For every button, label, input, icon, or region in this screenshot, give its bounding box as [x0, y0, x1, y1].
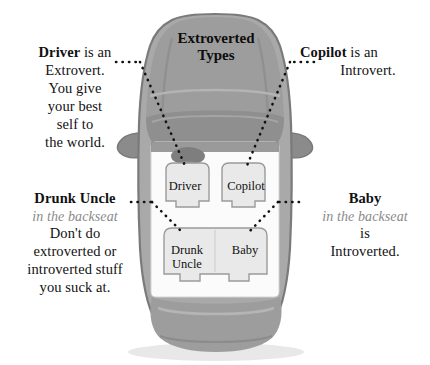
seat-label-driver: Driver [160, 179, 210, 193]
annotation-copilot-lead-rest: is an [347, 44, 378, 60]
annotation-drunk-uncle-line-3: introverted stuff [0, 261, 150, 279]
annotation-driver-line-3: your best [2, 98, 148, 116]
trunk-panel [150, 297, 281, 352]
annotation-drunk-uncle-line-2: extroverted or [0, 243, 150, 261]
annotation-driver: Driver is an Extrovert. You give your be… [2, 44, 148, 152]
page-title: Extroverted Types [150, 30, 282, 64]
annotation-drunk-uncle: Drunk Uncle in the backseat Don't do ext… [0, 190, 150, 297]
annotation-copilot-lead: Copilot [300, 44, 347, 60]
seat-label-baby: Baby [222, 243, 268, 257]
annotation-drunk-uncle-line-4: you suck at. [0, 279, 150, 297]
annotation-baby-line-2: Introverted. [300, 243, 430, 261]
annotation-baby: Baby in the backseat is Introverted. [300, 190, 430, 261]
annotation-baby-lead: Baby [300, 190, 430, 208]
annotation-baby-line-1: is [300, 225, 430, 243]
seat-label-drunk-uncle: Drunk Uncle [160, 243, 214, 272]
annotation-drunk-uncle-lead: Drunk Uncle [0, 190, 150, 208]
annotation-driver-line-4: self to [2, 116, 148, 134]
annotation-driver-line-1: Extrovert. [2, 62, 148, 80]
seat-label-copilot: Copilot [219, 179, 273, 193]
annotation-copilot: Copilot is an Introvert. [300, 44, 430, 80]
annotation-copilot-line-1: Introvert. [300, 62, 430, 80]
diagram-canvas: Extroverted Types Driver Copilot Drunk U… [0, 0, 430, 365]
dashboard [151, 142, 279, 152]
annotation-driver-lead-rest: is an [80, 44, 111, 60]
annotation-driver-line-2: You give [2, 80, 148, 98]
annotation-driver-line-5: the world. [2, 134, 148, 152]
annotation-driver-lead: Driver [39, 44, 81, 60]
annotation-baby-subtitle: in the backseat [300, 208, 430, 225]
annotation-drunk-uncle-subtitle: in the backseat [0, 208, 150, 225]
annotation-drunk-uncle-line-1: Don't do [0, 225, 150, 243]
